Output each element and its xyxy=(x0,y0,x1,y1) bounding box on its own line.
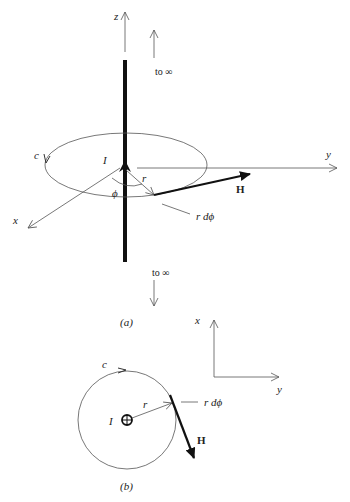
contour-label-a: c xyxy=(34,149,39,161)
figure-a-caption: (a) xyxy=(120,316,133,329)
radius-vector-b xyxy=(132,403,172,418)
arc-element-label-b: r dϕ xyxy=(204,396,223,408)
y-axis-label-a: y xyxy=(325,148,331,160)
current-label-a: I xyxy=(102,154,108,166)
contour-direction-arrow-icon xyxy=(44,154,50,163)
figure-b: x y c I r H r dϕ (b) xyxy=(78,314,282,493)
y-axis-label-b: y xyxy=(276,383,282,395)
to-infinity-bottom-label: to ∞ xyxy=(152,267,169,278)
x-axis-label-a: x xyxy=(12,214,18,226)
field-label-a: H xyxy=(236,183,245,195)
contour-label-b: c xyxy=(102,358,107,370)
x-axis-label-b: x xyxy=(194,314,200,326)
figure-a: z to ∞ to ∞ c I y x r ϕ H r dϕ (a) xyxy=(12,10,337,329)
to-infinity-top-label: to ∞ xyxy=(155,66,172,77)
field-h-vector-b xyxy=(170,395,194,458)
radius-label-b: r xyxy=(143,398,148,410)
z-axis-label: z xyxy=(113,10,119,22)
current-label-b: I xyxy=(108,415,114,427)
x-axis xyxy=(28,168,120,228)
radius-vector xyxy=(126,170,154,195)
field-label-b: H xyxy=(197,434,206,446)
angle-label-a: ϕ xyxy=(112,187,118,199)
figure-b-caption: (b) xyxy=(120,480,133,493)
radius-label-a: r xyxy=(142,172,147,184)
contour-direction-arrow-icon-b xyxy=(118,368,126,373)
arc-element-label-a: r dϕ xyxy=(196,210,215,222)
arc-element-leader xyxy=(162,204,190,214)
diagram-canvas: z to ∞ to ∞ c I y x r ϕ H r dϕ (a) x y c… xyxy=(0,0,350,502)
